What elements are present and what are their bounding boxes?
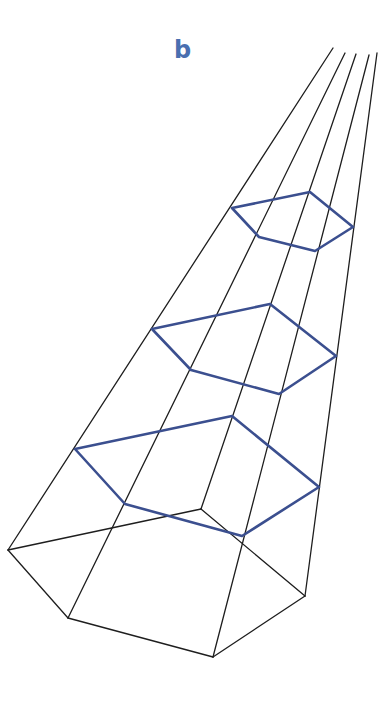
lateral-edge xyxy=(68,53,345,618)
lateral-edge xyxy=(8,48,333,550)
lateral-edge xyxy=(305,53,377,596)
lower-section xyxy=(75,416,319,536)
base-edge xyxy=(201,509,305,596)
cross-sections xyxy=(75,192,353,536)
pyramid-edges xyxy=(8,48,377,657)
lateral-edge xyxy=(213,55,369,657)
middle-section xyxy=(152,304,336,394)
lateral-edge xyxy=(201,54,356,509)
base-edge xyxy=(68,618,213,657)
pyramid-diagram xyxy=(0,0,384,711)
base-edge xyxy=(8,550,68,618)
